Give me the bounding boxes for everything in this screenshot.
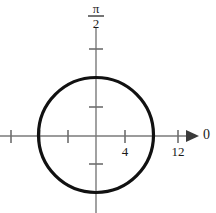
y-axis-end-label: π 2 xyxy=(88,1,104,31)
x-tick-label-12: 12 xyxy=(172,144,185,159)
x-tick-label-4: 4 xyxy=(122,144,129,159)
polar-plot-canvas: π 2 0 4 12 xyxy=(0,0,216,213)
x-axis-arrow-icon xyxy=(186,130,199,142)
pi-over-two-denominator: 2 xyxy=(93,16,100,31)
polar-plot-figure: π 2 0 4 12 xyxy=(0,0,216,213)
pi-over-two-numerator: π xyxy=(93,1,100,16)
x-axis-end-label: 0 xyxy=(203,127,210,142)
